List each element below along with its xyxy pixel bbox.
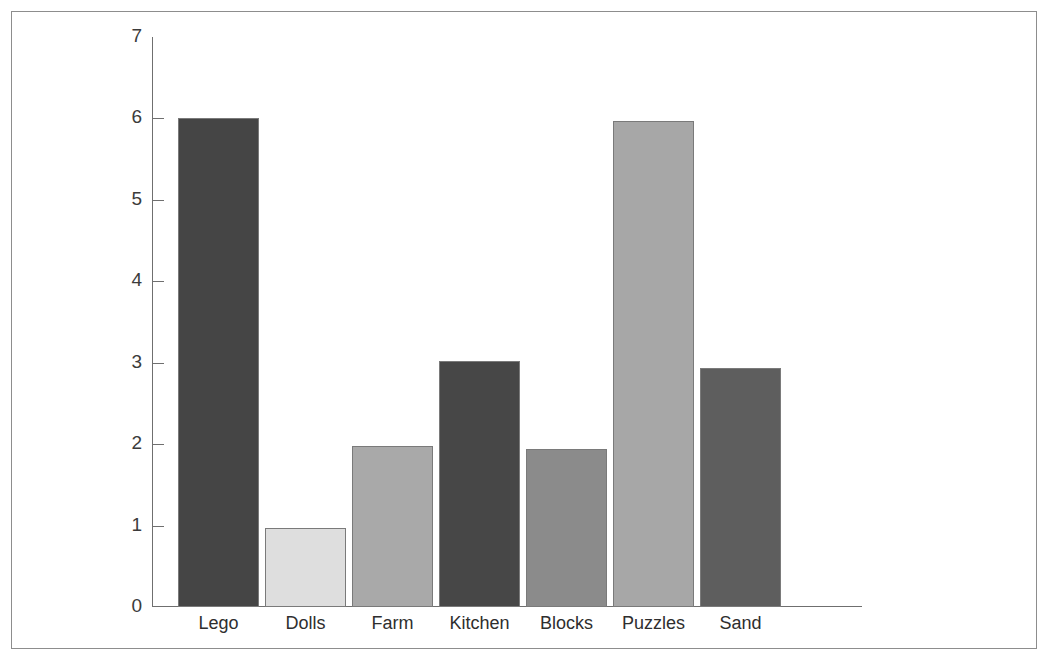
x-axis-category-label: Sand: [680, 614, 801, 634]
bar: [700, 368, 781, 607]
figure-frame: 01234567 LegoDollsFarmKitchenBlocksPuzzl…: [11, 11, 1037, 649]
plot-area: 01234567 LegoDollsFarmKitchenBlocksPuzzl…: [12, 12, 1038, 650]
y-axis-tick-label: 1: [112, 515, 142, 534]
bar: [352, 446, 433, 607]
y-axis-tick-label: 7: [112, 26, 142, 45]
chart-page: 01234567 LegoDollsFarmKitchenBlocksPuzzl…: [0, 0, 1049, 662]
bar: [439, 361, 520, 607]
bar: [526, 449, 607, 607]
y-axis-tick-label: 6: [112, 107, 142, 126]
bar: [265, 528, 346, 607]
y-axis-tick-label: 5: [112, 189, 142, 208]
bars-layer: [152, 37, 862, 607]
y-axis-tick-label: 2: [112, 433, 142, 452]
y-axis-tick-label: 3: [112, 352, 142, 371]
y-axis-tick-label: 4: [112, 270, 142, 289]
bar: [178, 118, 259, 607]
bar: [613, 121, 694, 607]
y-axis-tick-label: 0: [112, 596, 142, 615]
